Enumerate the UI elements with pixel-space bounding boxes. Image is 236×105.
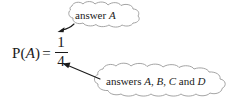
arrow-top-to-numerator	[58, 24, 75, 32]
fraction-numerator: 1	[55, 35, 67, 51]
callout-bottom-variable-a: A	[144, 75, 151, 87]
callout-bottom-label: answers A, B, C and D	[106, 76, 205, 87]
fraction-denominator: 4	[55, 54, 67, 70]
callout-bottom-prefix: answers	[106, 75, 144, 87]
callout-bottom-variable-c: C	[169, 75, 176, 87]
equals-sign: =	[42, 46, 50, 61]
arrow-bottom-to-denominator	[63, 63, 101, 79]
close-paren: )	[35, 46, 40, 61]
event-variable: A	[26, 46, 35, 61]
callout-top-prefix: answer	[75, 9, 109, 21]
probability-equation: P( A ) = 1 4	[12, 36, 68, 71]
callout-bottom-variable-d: D	[197, 75, 205, 87]
probability-symbol: P(	[12, 46, 26, 61]
callout-top-label: answer A	[75, 10, 116, 21]
callout-bottom-sep-3: and	[176, 75, 197, 87]
callout-top-variable: A	[109, 9, 116, 21]
diagram-canvas: P( A ) = 1 4 answer A answers A, B, C an…	[0, 0, 236, 105]
fraction-one-quarter: 1 4	[55, 35, 68, 70]
